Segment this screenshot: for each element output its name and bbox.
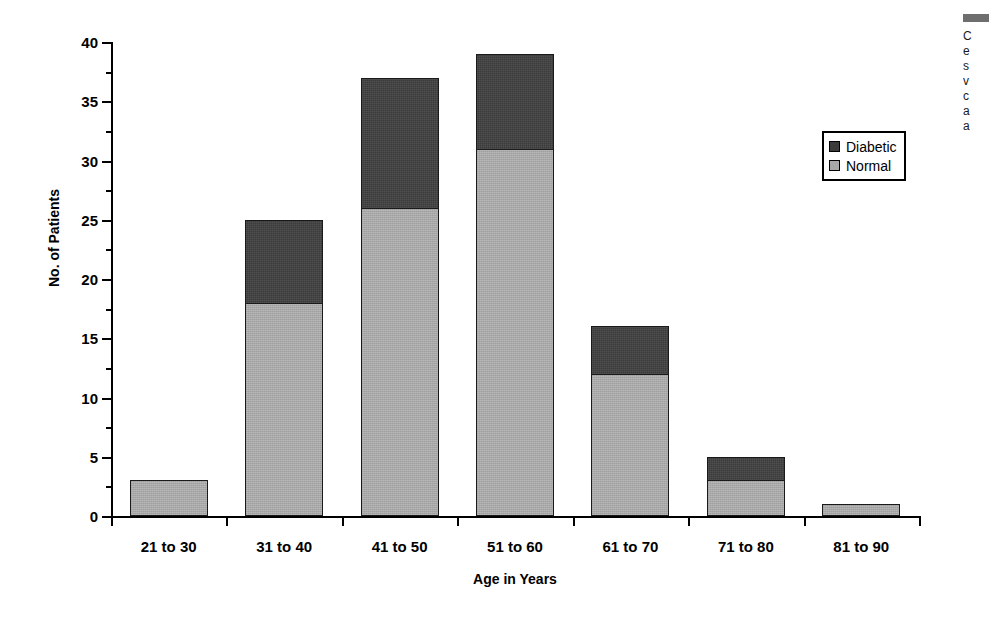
bar-segment-normal — [130, 480, 208, 516]
tick-mark — [106, 131, 111, 133]
x-axis-tick — [573, 516, 575, 526]
bar-segment-normal — [591, 374, 669, 516]
caption-text: Cesvcaa — [963, 29, 993, 134]
bar-segment-diabetic — [245, 220, 323, 303]
x-axis-tick — [457, 516, 459, 526]
x-axis-tick-label: 81 to 90 — [833, 538, 889, 555]
y-axis-tick-label: 25 — [81, 211, 98, 228]
y-axis-tick-label: 35 — [81, 93, 98, 110]
y-axis-tick-label: 30 — [81, 152, 98, 169]
tick-mark — [106, 427, 111, 429]
bar-segment-normal — [707, 480, 785, 516]
bar-group — [707, 457, 785, 516]
x-axis-tick-label: 71 to 80 — [718, 538, 774, 555]
y-axis-tick-label: 5 — [90, 448, 98, 465]
caption-line: c — [963, 89, 993, 104]
caption-line: a — [963, 119, 993, 134]
bar-group — [822, 504, 900, 516]
bar-segment-diabetic — [476, 54, 554, 149]
y-axis-tick-label: 20 — [81, 271, 98, 288]
legend-item-diabetic: Diabetic — [829, 137, 897, 156]
tick-mark — [102, 398, 111, 400]
tick-mark — [106, 190, 111, 192]
caption-line: s — [963, 59, 993, 74]
tick-mark — [102, 338, 111, 340]
bar-segment-normal — [822, 504, 900, 516]
bar-group — [476, 54, 554, 516]
caption-line: v — [963, 74, 993, 89]
bar-group — [245, 220, 323, 516]
tick-mark — [102, 279, 111, 281]
legend-swatch-diabetic-icon — [829, 141, 840, 152]
tick-mark — [102, 161, 111, 163]
x-axis-tick-label: 51 to 60 — [487, 538, 543, 555]
bar-group — [361, 78, 439, 516]
tick-mark — [106, 486, 111, 488]
bar-segment-normal — [245, 303, 323, 516]
tick-mark — [106, 249, 111, 251]
bar-group — [130, 480, 208, 516]
x-axis-tick-label: 31 to 40 — [256, 538, 312, 555]
chart-legend: Diabetic Normal — [822, 131, 906, 181]
x-axis-tick — [342, 516, 344, 526]
tick-mark — [102, 101, 111, 103]
caption-line: C — [963, 29, 993, 44]
caption-marker-bar — [963, 14, 989, 22]
tick-mark — [106, 368, 111, 370]
tick-mark — [102, 42, 111, 44]
tick-mark — [102, 457, 111, 459]
caption-line: a — [963, 104, 993, 119]
y-axis-tick-label: 0 — [90, 508, 98, 525]
y-axis-title: No. of Patients — [46, 138, 62, 338]
tick-mark — [106, 72, 111, 74]
x-axis-tick-label: 21 to 30 — [141, 538, 197, 555]
tick-mark — [102, 516, 111, 518]
tick-mark — [106, 309, 111, 311]
bar-segment-normal — [476, 149, 554, 516]
x-axis-tick-label: 41 to 50 — [372, 538, 428, 555]
x-axis-tick — [688, 516, 690, 526]
y-axis-tick-label: 40 — [81, 34, 98, 51]
bar-segment-diabetic — [707, 457, 785, 481]
legend-label-normal: Normal — [846, 159, 891, 173]
bar-segment-normal — [361, 208, 439, 516]
legend-label-diabetic: Diabetic — [846, 140, 897, 154]
x-axis-title: Age in Years — [111, 571, 919, 587]
y-axis-line — [111, 42, 113, 518]
caption-block: Cesvcaa — [963, 14, 993, 134]
x-axis-tick-label: 61 to 70 — [602, 538, 658, 555]
x-axis-tick — [804, 516, 806, 526]
bar-segment-diabetic — [361, 78, 439, 208]
x-axis-tick — [111, 516, 113, 526]
legend-swatch-normal-icon — [829, 160, 840, 171]
tick-mark — [102, 220, 111, 222]
legend-item-normal: Normal — [829, 156, 897, 175]
x-axis-tick — [226, 516, 228, 526]
bar-segment-diabetic — [591, 326, 669, 373]
y-axis-tick-label: 10 — [81, 389, 98, 406]
x-axis-line — [111, 516, 919, 518]
x-axis-tick — [919, 516, 921, 526]
caption-line: e — [963, 44, 993, 59]
y-axis-tick-label: 15 — [81, 330, 98, 347]
plot-area: 0510152025303540 21 to 3031 to 4041 to 5… — [111, 42, 919, 518]
bar-group — [591, 326, 669, 516]
